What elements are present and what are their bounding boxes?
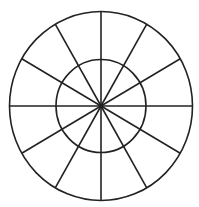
spoke-line bbox=[55, 24, 101, 106]
spoke-line bbox=[22, 106, 101, 153]
spoke-line bbox=[101, 59, 180, 106]
spoke-line bbox=[55, 106, 101, 188]
spoke-line bbox=[101, 106, 147, 188]
center-point bbox=[99, 104, 103, 108]
spoke-line bbox=[22, 59, 101, 106]
spoke-line bbox=[101, 106, 180, 153]
spoke-line bbox=[101, 24, 147, 106]
polar-grid-diagram bbox=[0, 0, 199, 207]
